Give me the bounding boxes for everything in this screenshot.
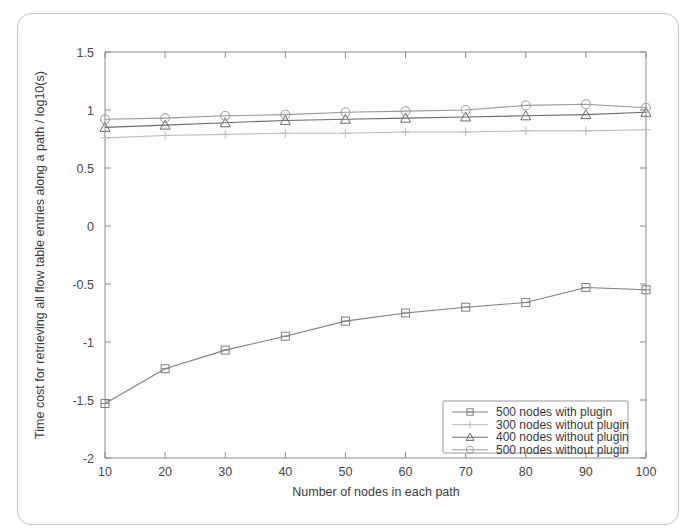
y-tick-label: 0 [87,220,94,234]
data-point-square-marker [522,299,530,307]
legend-item-label: 500 nodes without plugin [496,443,629,457]
series-line [105,287,646,403]
data-point-plus-marker [401,128,410,137]
data-point-plus-marker [461,128,470,137]
y-tick-label: 0.5 [77,162,94,176]
x-tick-label: 20 [158,465,172,479]
x-tick-label: 70 [459,465,473,479]
series-3 [100,107,651,131]
x-tick-label: 90 [579,465,593,479]
y-axis-title: Time cost for retrieving all flow table … [33,71,47,439]
axes [105,52,646,458]
x-axis-title: Number of nodes in each path [292,485,460,499]
data-point-square-marker [341,317,349,325]
figure-container: -2-1.5-1-0.500.511.5 1020304050607080901… [0,0,697,528]
line-chart: -2-1.5-1-0.500.511.5 1020304050607080901… [0,0,697,528]
series-line [105,130,646,138]
x-tick-label: 30 [218,465,232,479]
y-tick-label: -2 [83,452,94,466]
x-tick-label: 100 [636,465,657,479]
data-point-square-marker [281,332,289,340]
y-tick-label: 1.5 [77,46,94,60]
data-point-plus-marker [221,130,230,139]
y-tick-label: 1 [87,104,94,118]
data-point-square-marker [402,309,410,317]
x-tick-label: 40 [278,465,292,479]
data-point-square-marker [582,283,590,291]
y-tick-label: -1.5 [72,394,94,408]
x-tick-label: 50 [338,465,352,479]
data-point-plus-marker [521,126,530,135]
data-point-plus-marker [161,131,170,140]
x-tick-label: 60 [399,465,413,479]
series-line [105,104,646,119]
series-line [105,112,646,127]
series-1 [101,283,650,407]
data-point-plus-marker [101,133,110,142]
data-point-square-marker [161,365,169,373]
legend: 500 nodes with plugin300 nodes without p… [443,401,629,457]
data-point-plus-marker [281,129,290,138]
x-tick-label: 10 [98,465,112,479]
data-point-plus-marker [642,125,651,134]
y-tick-label: -0.5 [72,278,94,292]
data-point-plus-marker [581,126,590,135]
data-point-square-marker [221,346,229,354]
series-group [100,100,651,408]
series-4 [101,100,651,124]
data-point-plus-marker [341,129,350,138]
y-tick-label: -1 [83,336,94,350]
x-tick-label: 80 [519,465,533,479]
data-point-square-marker [462,303,470,311]
scanned-page: -2-1.5-1-0.500.511.5 1020304050607080901… [0,0,697,528]
series-2 [101,125,651,142]
